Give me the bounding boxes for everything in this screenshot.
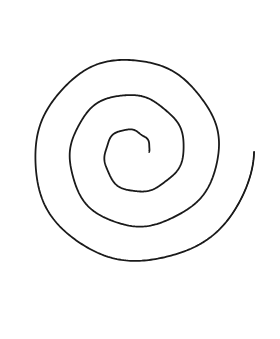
canvas-background (0, 0, 280, 339)
spiral-figure (0, 0, 280, 339)
drawing-canvas (0, 0, 280, 339)
